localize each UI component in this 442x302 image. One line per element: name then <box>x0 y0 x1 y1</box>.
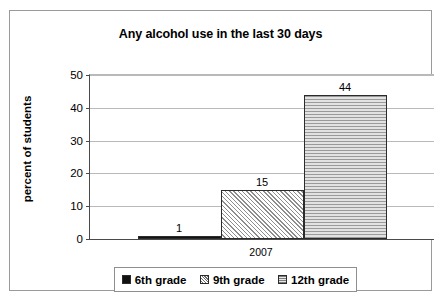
bar-value-label: 15 <box>256 176 268 188</box>
y-tick-mark <box>86 108 90 109</box>
y-tick-mark <box>86 206 90 207</box>
bar-6th-grade[interactable]: 1 <box>138 236 221 239</box>
gridline <box>90 75 434 76</box>
bar-12th-grade[interactable]: 44 <box>304 95 387 239</box>
y-tick-label: 20 <box>70 167 83 179</box>
legend-item-6th-grade[interactable]: 6th grade <box>122 274 187 286</box>
y-tick-label: 50 <box>70 69 83 81</box>
y-axis-title: percent of students <box>21 69 33 229</box>
legend-item-label: 12th grade <box>291 274 349 286</box>
legend-item-label: 9th grade <box>213 274 265 286</box>
y-tick-label: 10 <box>70 200 83 212</box>
chart-screenshot: Any alcohol use in the last 30 days perc… <box>0 0 442 302</box>
y-tick-mark <box>86 239 90 240</box>
chart-title: Any alcohol use in the last 30 days <box>10 27 431 41</box>
legend-item-12th-grade[interactable]: 12th grade <box>278 274 349 286</box>
y-tick-mark <box>86 141 90 142</box>
y-tick-label: 40 <box>70 102 83 114</box>
legend-swatch-icon <box>122 275 131 284</box>
bar-value-label: 1 <box>176 222 182 234</box>
y-tick-label: 30 <box>70 135 83 147</box>
plot-area: 0102030405011544 <box>89 74 434 240</box>
y-tick-mark <box>86 173 90 174</box>
legend-swatch-icon <box>278 275 287 284</box>
legend-item-label: 6th grade <box>135 274 187 286</box>
bar-9th-grade[interactable]: 15 <box>221 190 304 239</box>
chart-frame: Any alcohol use in the last 30 days perc… <box>9 10 432 291</box>
x-category-label: 2007 <box>249 246 272 258</box>
y-tick-label: 0 <box>77 233 83 245</box>
legend-swatch-icon <box>200 275 209 284</box>
y-tick-mark <box>86 75 90 76</box>
legend-item-9th-grade[interactable]: 9th grade <box>200 274 265 286</box>
chart-legend: 6th grade9th grade12th grade <box>114 267 357 292</box>
bar-value-label: 44 <box>339 81 351 93</box>
